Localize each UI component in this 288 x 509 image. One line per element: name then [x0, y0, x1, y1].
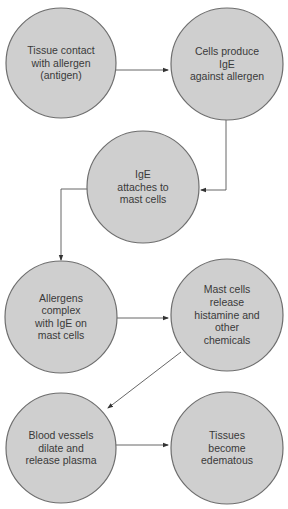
node-blood-vessels-dilate: Blood vesselsdilate andrelease plasma [6, 393, 116, 503]
node-label-line: Tissue contact [27, 44, 94, 56]
node-label-line: (antigen) [40, 69, 81, 81]
node-label-line: with IgE on [34, 317, 87, 329]
node-label-line: histamine and [194, 309, 260, 321]
node-label-line: against allergen [190, 70, 264, 82]
node-label-line: release [210, 296, 245, 308]
node-label-line: complex [41, 304, 81, 316]
allergy-flow-diagram: Tissue contactwith allergen(antigen) Cel… [0, 0, 288, 509]
node-label-line: Cells produce [195, 45, 259, 57]
edge-n2-n3 [201, 118, 226, 190]
edge-n5-n6 [108, 352, 181, 408]
node-ige-attaches: IgEattaches tomast cells [87, 131, 199, 243]
node-label-line: mast cells [120, 193, 167, 205]
node-tissue-contact: Tissue contactwith allergen(antigen) [6, 8, 116, 118]
node-label-line: dilate and [38, 442, 84, 454]
edge-n3-n4 [61, 189, 87, 260]
node-label-line: IgE [135, 168, 151, 180]
node-label-line: with allergen [31, 57, 91, 69]
node-tissues-edematous: Tissuesbecomeedematous [171, 392, 283, 504]
node-allergens-complex: Allergenscomplexwith IgE onmast cells [5, 261, 117, 373]
node-label-line: release plasma [25, 454, 96, 466]
node-label-line: edematous [201, 454, 253, 466]
node-label-line: Allergens [39, 292, 83, 304]
node-label-line: attaches to [117, 181, 169, 193]
node-label-line: chemicals [204, 334, 251, 346]
node-label-line: IgE [219, 58, 235, 70]
node-label-line: other [215, 321, 239, 333]
node-label-line: Mast cells [204, 283, 251, 295]
node-label-line: become [208, 442, 246, 454]
node-mast-cells-release: Mast cellsreleasehistamine andotherchemi… [171, 259, 283, 371]
node-label-line: Tissues [209, 429, 245, 441]
node-label-line: Blood vessels [29, 429, 94, 441]
node-cells-produce-ige: Cells produceIgEagainst allergen [171, 8, 283, 120]
node-label-line: mast cells [38, 329, 85, 341]
